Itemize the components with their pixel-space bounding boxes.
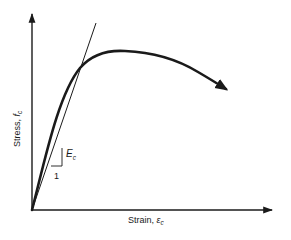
stress-strain-diagram: Ec 1 Stress, fc Strain, εc [0,0,291,240]
tangent-line [32,23,96,210]
unit-run-label: 1 [54,171,59,181]
x-axis-label: Strain, εc [128,215,164,226]
y-axis-label: Stress, fc [12,110,23,147]
stress-strain-curve [32,51,226,210]
modulus-label: Ec [66,148,77,161]
